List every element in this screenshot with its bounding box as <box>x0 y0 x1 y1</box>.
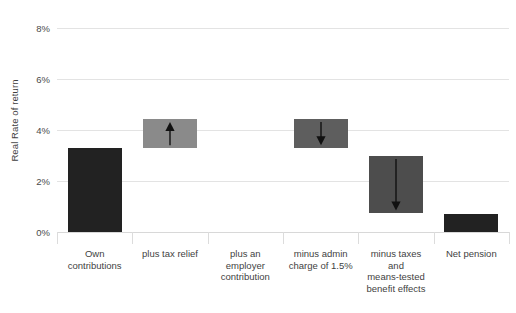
category-label-2: plus tax relief <box>132 248 207 260</box>
category-label-line: Own <box>57 248 132 260</box>
category-tick <box>132 232 133 244</box>
category-label-line: contribution <box>208 271 283 283</box>
category-label-line: means-tested <box>358 271 433 283</box>
bar-6 <box>444 214 498 232</box>
bar-5 <box>369 156 423 213</box>
category-tick <box>57 232 58 244</box>
y-axis-tick-label: 4% <box>36 125 50 136</box>
y-axis-tick-label: 2% <box>36 176 50 187</box>
gridline-2pct <box>57 181 509 182</box>
arrow-down-icon <box>388 156 404 213</box>
category-label-line: minus taxes <box>358 248 433 260</box>
category-label-5: minus taxesandmeans-testedbenefit effect… <box>358 248 433 294</box>
gridline-4pct <box>57 130 509 131</box>
category-tick <box>434 232 435 244</box>
category-label-1: Owncontributions <box>57 248 132 271</box>
y-axis-title-label: Real Rate of return <box>9 79 20 161</box>
arrow-up-icon <box>162 119 178 148</box>
gridline-6pct <box>57 79 509 80</box>
bar-4 <box>294 119 348 148</box>
plot-area: 0%2%4%6%8% <box>57 28 509 232</box>
y-axis-tick-label: 0% <box>36 227 50 238</box>
category-label-line: employer <box>208 260 283 272</box>
category-label-line: plus tax relief <box>132 248 207 260</box>
category-label-6: Net pension <box>434 248 509 260</box>
category-label-line: and <box>358 260 433 272</box>
category-label-line: Net pension <box>434 248 509 260</box>
waterfall-chart: Real Rate of return 0%2%4%6%8% Owncontri… <box>0 0 516 313</box>
category-label-4: minus admincharge of 1.5% <box>283 248 358 271</box>
bar-1 <box>68 148 122 232</box>
gridline-8pct <box>57 28 509 29</box>
bar-2 <box>143 119 197 148</box>
category-label-line: contributions <box>57 260 132 272</box>
y-axis-tick-label: 6% <box>36 74 50 85</box>
category-tick <box>358 232 359 244</box>
arrow-down-icon <box>313 119 329 148</box>
y-axis-title: Real Rate of return <box>2 0 26 240</box>
category-tick <box>509 232 510 244</box>
category-tick <box>208 232 209 244</box>
category-tick <box>283 232 284 244</box>
category-label-line: charge of 1.5% <box>283 260 358 272</box>
category-label-line: minus admin <box>283 248 358 260</box>
y-axis-tick-label: 8% <box>36 23 50 34</box>
category-axis: Owncontributionsplus tax reliefplus anem… <box>57 232 509 313</box>
category-label-line: plus an <box>208 248 283 260</box>
category-label-3: plus anemployercontribution <box>208 248 283 283</box>
category-label-line: benefit effects <box>358 283 433 295</box>
